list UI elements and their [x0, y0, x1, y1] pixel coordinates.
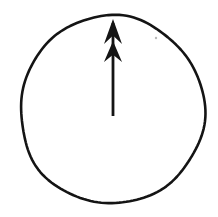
diagram-svg	[0, 0, 218, 217]
figure-canvas: A hand-drawn circle outline containing a…	[0, 0, 218, 217]
ink-speck-icon	[155, 37, 157, 39]
